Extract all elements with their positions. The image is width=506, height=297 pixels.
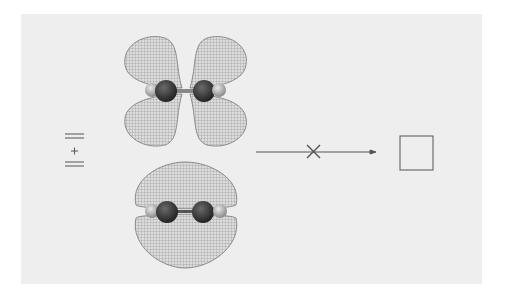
forbidden-reaction-arrow [256, 145, 376, 158]
cyclobutane-product [400, 136, 433, 170]
reactants-symbol [65, 134, 84, 166]
reaction-diagram [0, 0, 506, 297]
